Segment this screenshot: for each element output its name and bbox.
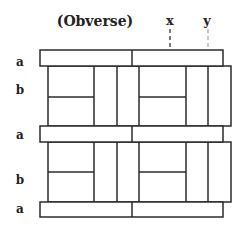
row-label-a-3: a — [16, 202, 24, 216]
bar-a-1 — [40, 50, 223, 66]
title-obverse: (Obverse) — [57, 13, 133, 29]
row-label-b-1: b — [16, 83, 24, 97]
marker-x-label: x — [166, 13, 174, 28]
bar-a-2 — [40, 126, 223, 142]
block-b-1 — [48, 66, 231, 126]
row-label-a-1: a — [16, 55, 24, 69]
block-b-2 — [48, 142, 231, 202]
diagram-stage: (Obverse) x y a b a b a — [0, 0, 249, 230]
panel-diagram: (Obverse) x y a b a b a — [0, 0, 249, 230]
row-label-b-2: b — [16, 173, 24, 187]
row-label-a-2: a — [16, 128, 24, 142]
bar-a-3 — [40, 202, 223, 217]
marker-y-label: y — [202, 13, 211, 28]
